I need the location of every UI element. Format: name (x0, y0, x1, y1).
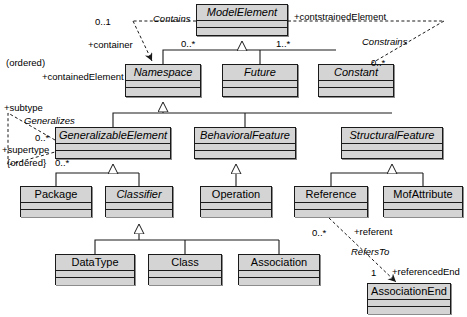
uml-attributes-compartment-class (149, 271, 221, 278)
label-assoc-constrains: Constrains (362, 37, 407, 47)
uml-attributes-compartment-model-element (197, 21, 287, 28)
label-assoc-contains: Contains (153, 14, 191, 24)
uml-class-association-end[interactable]: AssociationEnd (367, 283, 451, 314)
uml-class-name-class: Class (149, 255, 221, 271)
label-role-container: +container (88, 40, 133, 50)
uml-operations-compartment-behavioral-feature (195, 151, 295, 158)
uml-class-reference[interactable]: Reference (294, 186, 368, 217)
label-mult-namespace-gen: 0..* (181, 39, 195, 49)
uml-attributes-compartment-mof-attribute (384, 203, 462, 210)
uml-class-constant[interactable]: Constant (318, 64, 394, 97)
uml-class-association[interactable]: Association (238, 254, 320, 285)
uml-class-future[interactable]: Future (222, 64, 298, 97)
uml-attributes-compartment-structural-feature (342, 144, 442, 151)
uml-operations-compartment-association-end (368, 307, 450, 314)
uml-class-mof-attribute[interactable]: MofAttribute (383, 186, 463, 217)
uml-class-name-operation: Operation (201, 187, 271, 203)
label-mult-supertype: 0..* (55, 158, 69, 168)
uml-class-class[interactable]: Class (148, 254, 222, 285)
uml-attributes-compartment-generalizable-element (56, 144, 170, 151)
uml-attributes-compartment-reference (295, 203, 367, 210)
uml-class-name-package: Package (21, 187, 91, 203)
label-assoc-generalizes: Generalizes (24, 116, 75, 126)
uml-attributes-compartment-future (223, 81, 297, 88)
uml-class-behavioral-feature[interactable]: BehavioralFeature (194, 127, 296, 159)
uml-class-name-namespace: Namespace (126, 65, 200, 81)
uml-class-name-classifier: Classifier (106, 187, 172, 203)
uml-class-structural-feature[interactable]: StructuralFeature (341, 127, 443, 159)
uml-attributes-compartment-operation (201, 203, 271, 210)
uml-operations-compartment-future (223, 88, 297, 95)
uml-class-namespace[interactable]: Namespace (125, 64, 201, 97)
label-mult-referenced-end: 1 (371, 268, 376, 278)
uml-class-name-generalizable-element: GeneralizableElement (56, 128, 170, 144)
uml-operations-compartment-data-type (56, 278, 134, 285)
uml-class-diagram: ModelElementNamespaceFutureConstantGener… (0, 0, 467, 317)
label-mult-future-gen: 1..* (276, 39, 290, 49)
uml-class-name-structural-feature: StructuralFeature (342, 128, 442, 144)
uml-operations-compartment-classifier (106, 210, 172, 217)
uml-class-name-future: Future (223, 65, 297, 81)
uml-attributes-compartment-package (21, 203, 91, 210)
label-assoc-refersto: RefersTo (351, 247, 389, 257)
uml-attributes-compartment-association (239, 271, 319, 278)
uml-class-name-data-type: DataType (56, 255, 134, 271)
label-qual-ordered-contains: (ordered) (6, 58, 45, 68)
uml-operations-compartment-constant (319, 88, 393, 95)
uml-operations-compartment-operation (201, 210, 271, 217)
label-role-referenced-end: +referencedEnd (392, 267, 460, 277)
uml-class-name-association: Association (239, 255, 319, 271)
uml-attributes-compartment-data-type (56, 271, 134, 278)
uml-operations-compartment-class (149, 278, 221, 285)
uml-attributes-compartment-constant (319, 81, 393, 88)
generalization-namespace (113, 103, 392, 127)
generalization-structural (331, 165, 423, 186)
label-role-constrained: +contstrainedElement (294, 12, 386, 22)
uml-class-name-association-end: AssociationEnd (368, 284, 450, 300)
uml-operations-compartment-reference (295, 210, 367, 217)
uml-class-name-model-element: ModelElement (197, 5, 287, 21)
label-role-contained: +containedElement (42, 72, 124, 82)
uml-operations-compartment-structural-feature (342, 151, 442, 158)
uml-class-generalizable-element[interactable]: GeneralizableElement (55, 127, 171, 159)
uml-class-operation[interactable]: Operation (200, 186, 272, 217)
uml-operations-compartment-association (239, 278, 319, 285)
label-mult-referent: 0..* (312, 228, 326, 238)
uml-operations-compartment-namespace (126, 88, 200, 95)
uml-class-classifier[interactable]: Classifier (105, 186, 173, 217)
uml-class-name-mof-attribute: MofAttribute (384, 187, 462, 203)
label-qual-ordered-gen: {ordered} (7, 158, 46, 168)
label-mult-constrains: 0..* (371, 58, 385, 68)
uml-operations-compartment-package (21, 210, 91, 217)
uml-class-model-element[interactable]: ModelElement (196, 4, 288, 36)
uml-class-data-type[interactable]: DataType (55, 254, 135, 285)
uml-operations-compartment-model-element (197, 28, 287, 35)
uml-operations-compartment-generalizable-element (56, 151, 170, 158)
uml-attributes-compartment-classifier (106, 203, 172, 210)
label-role-subtype: +subtype (4, 103, 43, 113)
uml-operations-compartment-mof-attribute (384, 210, 462, 217)
uml-class-name-reference: Reference (295, 187, 367, 203)
uml-attributes-compartment-namespace (126, 81, 200, 88)
uml-class-package[interactable]: Package (20, 186, 92, 217)
generalization-generalizable (56, 165, 139, 186)
uml-class-name-behavioral-feature: BehavioralFeature (195, 128, 295, 144)
generalization-classifier (95, 225, 279, 254)
label-mult-subtype: 0..* (35, 133, 49, 143)
label-mult-contains-source: 0..1 (95, 17, 111, 27)
label-role-supertype: +supertype (2, 145, 49, 155)
uml-attributes-compartment-behavioral-feature (195, 144, 295, 151)
label-role-referent: +referent (354, 227, 392, 237)
uml-attributes-compartment-association-end (368, 300, 450, 307)
